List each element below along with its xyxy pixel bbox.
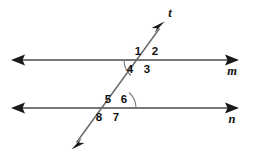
angle-label-6: 6 (121, 93, 127, 105)
angle-label-7: 7 (113, 111, 119, 123)
angle-label-4: 4 (127, 63, 134, 75)
angle-label-5: 5 (105, 93, 112, 105)
transversal-t-group (72, 22, 165, 150)
angle-label-8: 8 (96, 111, 103, 123)
geometry-diagram: 1 2 3 4 5 6 7 8 m n t (0, 0, 253, 157)
angle-label-1: 1 (135, 45, 142, 57)
line-label-n: n (229, 112, 236, 126)
transversal-t (77, 29, 160, 143)
angle-label-2: 2 (152, 45, 158, 57)
angle-arc-6 (129, 93, 136, 109)
angle-label-3: 3 (144, 63, 150, 75)
line-m-group (11, 55, 239, 66)
geometry-canvas: 1 2 3 4 5 6 7 8 m n t (0, 0, 253, 157)
line-label-m: m (227, 64, 237, 78)
line-label-t: t (168, 6, 172, 20)
